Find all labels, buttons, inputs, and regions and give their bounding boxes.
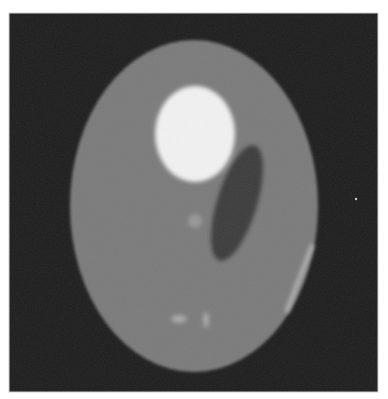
noise-overlay bbox=[9, 13, 378, 392]
image-canvas bbox=[0, 0, 388, 399]
phantom-image bbox=[0, 0, 388, 399]
